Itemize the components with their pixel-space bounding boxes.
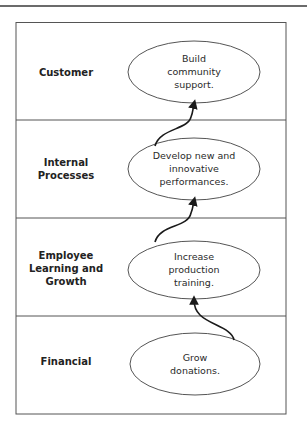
objective-text-customer: Build community support. bbox=[134, 52, 254, 91]
perspective-label-customer: Customer bbox=[16, 66, 116, 79]
perspective-label-financial: Financial bbox=[16, 355, 116, 368]
objective-text-internal: Develop new and innovative performances. bbox=[134, 149, 254, 188]
arrow-employee-to-internal bbox=[155, 201, 194, 242]
objective-text-financial: Grow donations. bbox=[135, 351, 255, 377]
perspective-label-internal: Internal Processes bbox=[16, 156, 116, 182]
perspective-label-employee: Employee Learning and Growth bbox=[16, 249, 116, 288]
objective-text-employee: Increase production training. bbox=[134, 250, 254, 289]
